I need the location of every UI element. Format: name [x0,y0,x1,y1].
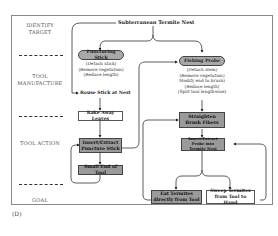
stage-divider [19,55,63,56]
fishing-steps: (Detach stem) (Remove vegetation) Modify… [170,67,234,95]
stage-tool-action: TOOL ACTION [12,140,68,147]
node-rake-away-leaves: Rake Away Leaves [78,111,123,121]
node-subterranean-termite-nest: Subterranean Termite Nest [116,19,196,25]
node-small-end-of-tool: Small End of Tool [78,165,123,175]
node-straighten-brush-fibers: Straighten Brush Fibers [179,112,225,128]
fishing-step: (Split tool lengthwise) [170,89,234,95]
node-insert-extract-probe: Insert/Extract Probe into Termite Nest [181,138,225,151]
node-puncturing-stick: Puncturing Stick [78,50,124,60]
stage-divider [19,116,63,117]
puncturing-steps: (Detach stick) (Remove vegetation) (Redu… [74,61,128,78]
diagram-frame [11,15,273,205]
node-insert-extract-puncture-stick: Insert/Extract Puncture Stick [79,138,122,153]
stage-identify-target: IDENTIFY TARGET [18,22,62,35]
node-fishing-probe: Fishing Probe [179,56,225,66]
stage-divider [19,184,63,185]
stage-goal: GOAL [18,197,62,204]
node-sweep-termites: Sweep Termites from Tool to Hand [206,190,255,204]
node-rouse-stick-at-nest: Rouse Stick at Nest [80,90,131,95]
panel-label: (D) [12,210,22,217]
puncturing-step: (Reduce length) [74,72,128,78]
fishing-step: Modify end to brush) [170,78,234,84]
node-eat-termites-directly: Eat Termites directly from Tool [151,190,202,204]
stage-tool-manufacture: TOOL MANUFACTURE [12,73,68,86]
